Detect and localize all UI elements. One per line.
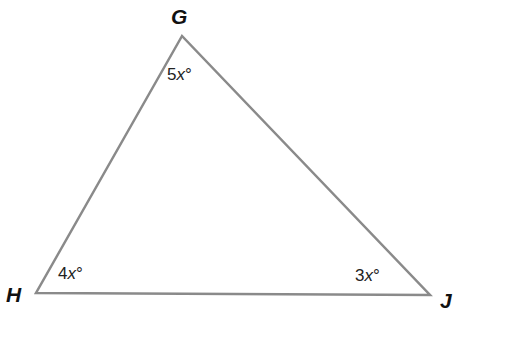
triangle-ghj [0, 0, 507, 343]
angle-label-g: 5x° [167, 65, 192, 85]
angle-label-j: 3x° [355, 266, 380, 286]
vertex-label-h: H [6, 283, 21, 307]
vertex-label-j: J [440, 289, 452, 313]
angle-label-h: 4x° [58, 264, 83, 284]
vertex-label-g: G [171, 5, 187, 29]
triangle-diagram: G H J 5x° 4x° 3x° [0, 0, 507, 343]
triangle-outline [36, 36, 430, 295]
